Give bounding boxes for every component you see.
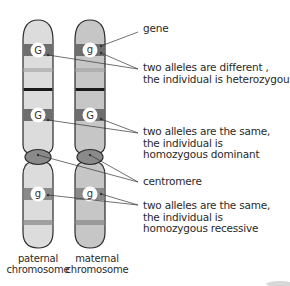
caption-maternal: maternal chromosome [65, 253, 129, 275]
allele-paternal-1: G [34, 45, 42, 56]
label-homozygous-recessive: two alleles are the same, the individual… [143, 200, 270, 235]
allele-paternal-2: G [34, 110, 42, 121]
allele-maternal-3: g [87, 188, 93, 199]
caption-paternal: paternal chromosome [6, 253, 70, 275]
allele-maternal-2: G [86, 110, 94, 121]
label-heterozygous: two alleles are different , the individu… [143, 62, 290, 85]
label-homozygous-dominant: two alleles are the same, the individual… [143, 126, 270, 161]
label-centromere: centromere [143, 176, 202, 188]
corner-shadow [266, 281, 290, 286]
label-gene: gene [143, 23, 168, 35]
allele-paternal-3: g [35, 188, 41, 199]
allele-maternal-1: g [87, 44, 93, 55]
